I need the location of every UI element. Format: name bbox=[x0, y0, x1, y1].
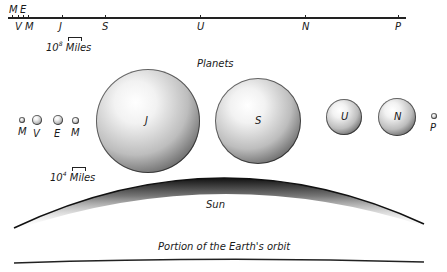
sun-label: Sun bbox=[206, 200, 225, 210]
orbit-label: Portion of the Earth's orbit bbox=[158, 242, 290, 252]
earth-orbit-line bbox=[14, 259, 424, 263]
sun-arc bbox=[0, 0, 447, 272]
